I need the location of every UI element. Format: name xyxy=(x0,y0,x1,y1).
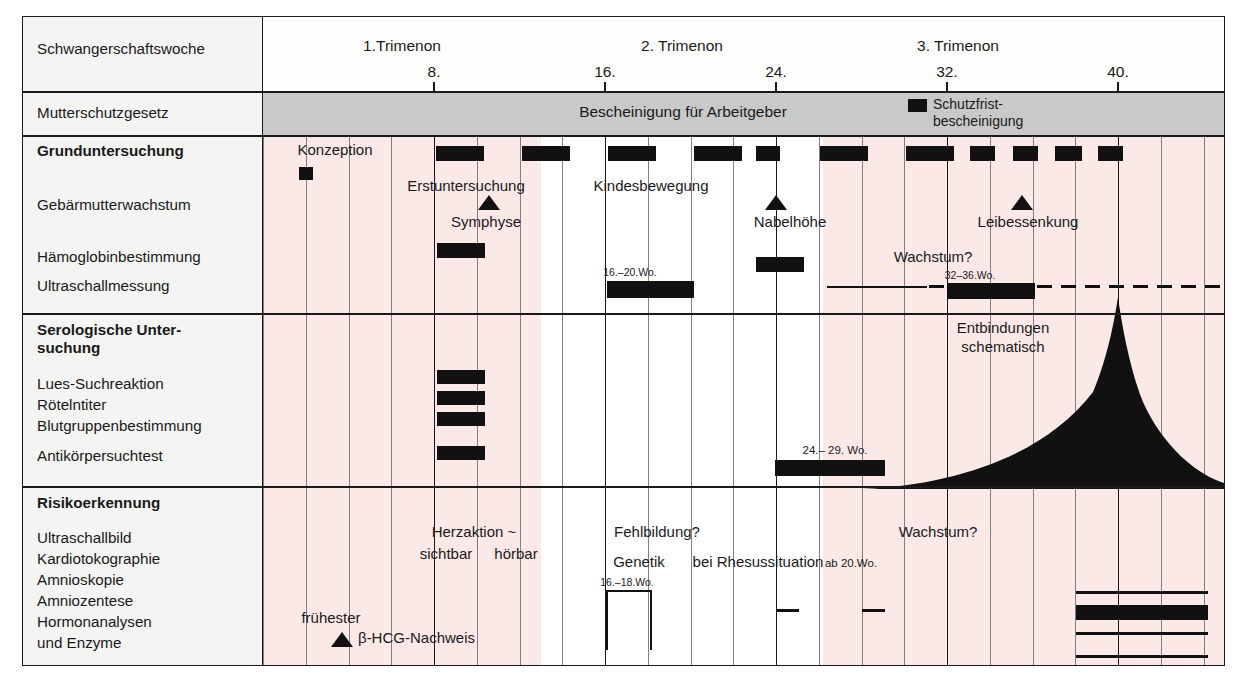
row-label-schwangerschaftswoche: Schwangerschaftswoche xyxy=(37,39,205,58)
erstuntersuchung-label: Erstuntersuchung xyxy=(407,177,525,194)
wachstum-ultraschall-label: Wachstum? xyxy=(894,248,973,265)
fruehester-label: frühester xyxy=(301,609,360,626)
grunduntersuchung-bar-2 xyxy=(522,146,570,161)
schutzfrist-line-2: bescheinigung xyxy=(933,113,1023,129)
grunduntersuchung-bar-1 xyxy=(436,146,484,161)
label-rule-1 xyxy=(23,91,263,93)
ab-20-wo-label: ab 20.Wo. xyxy=(825,557,877,569)
row-label-roetelntiter: Rötelntiter xyxy=(37,395,106,414)
row-label-column: Schwangerschaftswoche Mutterschutzgesetz… xyxy=(23,17,263,665)
axis-tick-24 xyxy=(775,82,777,91)
chart-page: Schwangerschaftswoche Mutterschutzgesetz… xyxy=(0,0,1247,682)
row-label-grunduntersuchung: Grunduntersuchung xyxy=(37,141,184,160)
trimester-label-1: 1.Trimenon xyxy=(363,37,441,55)
row-label-risikoerkennung: Risikoerkennung xyxy=(37,493,160,512)
symphyse-triangle-marker xyxy=(478,195,500,210)
bhcg-triangle-marker xyxy=(331,632,353,647)
row-label-mutterschutzgesetz: Mutterschutzgesetz xyxy=(37,103,169,122)
axis-tick-32 xyxy=(946,82,948,91)
row-label-ultraschallbild: Ultraschallbild xyxy=(37,528,132,547)
bhcg-label: β-HCG-Nachweis xyxy=(358,629,475,646)
axis-header: 1.Trimenon 2. Trimenon 3. Trimenon 8. 16… xyxy=(263,17,1224,91)
hoerbar-label: hörbar xyxy=(494,545,537,562)
row-label-gebaermutterwachstum: Gebärmutterwachstum xyxy=(37,195,191,214)
row-label-kardiotokographie: Kardiotokographie xyxy=(37,549,160,568)
konzeption-square-marker xyxy=(299,167,313,180)
label-rule-3 xyxy=(23,313,263,315)
kindesbewegung-label: Kindesbewegung xyxy=(593,177,708,194)
rhesus-tick-1 xyxy=(776,609,799,612)
leibessenkung-triangle-marker xyxy=(1011,195,1033,210)
risiko-line-4 xyxy=(1076,655,1208,658)
label-rule-2 xyxy=(23,135,263,137)
week-tick-label-8: 8. xyxy=(428,63,441,81)
leibessenkung-label: Leibessenkung xyxy=(978,213,1079,230)
risiko-line-1 xyxy=(1076,591,1208,594)
mutterschutz-band: Bescheinigung für Arbeitgeber Schutzfris… xyxy=(263,91,1224,135)
grunduntersuchung-bar-3 xyxy=(608,146,656,161)
rule-above-risiko xyxy=(263,486,1224,488)
grunduntersuchung-bar-5 xyxy=(756,146,780,161)
row-label-haemoglobinbestimmung: Hämoglobinbestimmung xyxy=(37,247,201,266)
row-label-serologische-2: suchung xyxy=(37,338,100,357)
row-label-hormonanalysen: Hormonanalysen xyxy=(37,612,152,631)
week-tick-label-24: 24. xyxy=(765,63,787,81)
wachstum-risiko-label: Wachstum? xyxy=(899,523,978,540)
entbindungen-schematisch-curve xyxy=(263,297,1224,489)
grunduntersuchung-bar-8 xyxy=(970,146,995,161)
grunduntersuchung-bar-6 xyxy=(820,146,868,161)
week-tick-label-32: 32. xyxy=(936,63,958,81)
row-label-antikoerpersuchtest: Antikörpersuchtest xyxy=(37,446,163,465)
ultraschall-16-20-label: 16.–20.Wo. xyxy=(603,266,657,278)
week-tick-label-16: 16. xyxy=(594,63,616,81)
rhesussituation-label: bei Rhesussituation xyxy=(693,553,824,570)
grunduntersuchung-bar-11 xyxy=(1098,146,1123,161)
row-label-serologische-1: Serologische Unter- xyxy=(37,320,181,339)
bescheinigung-text: Bescheinigung für Arbeitgeber xyxy=(579,103,787,121)
grunduntersuchung-bar-7 xyxy=(906,146,954,161)
trimester-label-2: 2. Trimenon xyxy=(641,37,723,55)
row-label-ultraschallmessung: Ultraschallmessung xyxy=(37,276,170,295)
rule-above-mutterschutz xyxy=(263,91,1224,93)
schutzfrist-square-icon xyxy=(908,99,927,112)
risiko-line-3 xyxy=(1076,632,1208,635)
ultraschall-32-36-label: 32–36.Wo. xyxy=(945,269,996,281)
ultraschall-growth-dash-2 xyxy=(1037,285,1224,288)
row-label-amnioskopie: Amnioskopie xyxy=(37,570,124,589)
haemoglobin-bar-2 xyxy=(756,257,804,272)
rule-below-mutterschutz xyxy=(263,135,1224,137)
ultraschall-growth-solid-line xyxy=(827,286,927,288)
grunduntersuchung-bar-4 xyxy=(694,146,742,161)
fehlbildung-label: Fehlbildung? xyxy=(614,523,700,540)
label-rule-4 xyxy=(23,486,263,488)
herzaktion-label: Herzaktion ~ xyxy=(432,523,517,540)
nabelhoehe-triangle-marker xyxy=(765,195,787,210)
row-label-blutgruppenbestimmung: Blutgruppenbestimmung xyxy=(37,416,202,435)
plot-area: 1.Trimenon 2. Trimenon 3. Trimenon 8. 16… xyxy=(263,17,1224,665)
axis-tick-8 xyxy=(433,82,435,91)
symphyse-label: Symphyse xyxy=(451,213,521,230)
axis-tick-16 xyxy=(604,82,606,91)
row-label-und-enzyme: und Enzyme xyxy=(37,633,121,652)
row-label-lues-suchreaktion: Lues-Suchreaktion xyxy=(37,374,164,393)
axis-tick-40 xyxy=(1117,82,1119,91)
trimester-label-3: 3. Trimenon xyxy=(917,37,999,55)
genetik-bracket xyxy=(606,590,652,650)
haemoglobin-bar-1 xyxy=(437,243,485,258)
genetik-label: Genetik xyxy=(613,553,665,570)
risiko-line-2-thick xyxy=(1076,605,1208,620)
genetik-16-18-label: 16.–18.Wo. xyxy=(600,576,654,588)
grunduntersuchung-bar-9 xyxy=(1013,146,1038,161)
rhesus-tick-2 xyxy=(862,609,885,612)
row-label-amniozentese: Amniozentese xyxy=(37,591,133,610)
grunduntersuchung-bar-10 xyxy=(1055,146,1082,161)
konzeption-label: Konzeption xyxy=(297,141,372,158)
chart-frame: Schwangerschaftswoche Mutterschutzgesetz… xyxy=(22,16,1225,666)
schutzfrist-line-1: Schutzfrist- xyxy=(933,96,1003,112)
ultraschall-bar-16-20 xyxy=(607,281,694,298)
sichtbar-label: sichtbar xyxy=(420,545,473,562)
rule-above-serologie xyxy=(263,313,1224,315)
nabelhoehe-label: Nabelhöhe xyxy=(754,213,827,230)
week-tick-label-40: 40. xyxy=(1107,63,1129,81)
